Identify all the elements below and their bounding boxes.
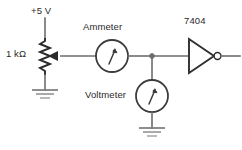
ground-left-symbol (32, 90, 58, 98)
circuit-diagram: +5 V 1 kΩ Ammeter Voltmeter 7404 (0, 0, 242, 150)
wiper-arrow-icon (48, 51, 58, 61)
supply-voltage-label: +5 V (31, 5, 51, 16)
ammeter-symbol (96, 40, 128, 72)
potentiometer-symbol (40, 38, 50, 75)
inverter-bubble-icon (214, 53, 221, 60)
resistor-value-label: 1 kΩ (6, 48, 26, 59)
inverter-gate-symbol (189, 39, 221, 73)
voltmeter-symbol (136, 80, 168, 112)
ground-bottom-symbol (139, 128, 165, 136)
inverter-part-number-label: 7404 (184, 15, 206, 26)
resistor-zigzag (40, 38, 50, 75)
voltmeter-label: Voltmeter (85, 89, 126, 100)
ammeter-label: Ammeter (83, 21, 122, 32)
inverter-triangle (189, 39, 214, 73)
